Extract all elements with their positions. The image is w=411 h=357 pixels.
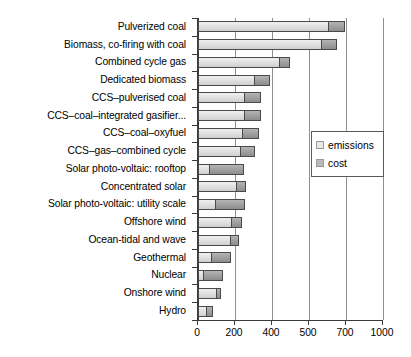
bar-stack: [198, 235, 239, 246]
y-axis-label-row: Combined cycle gas: [0, 54, 191, 72]
y-axis-label-row: Solar photo-voltaic: utility scale: [0, 196, 191, 214]
y-axis-tick: [192, 231, 197, 232]
y-axis-label: Combined cycle gas: [95, 57, 186, 67]
bar-stack: [198, 217, 242, 228]
y-axis-tick: [192, 213, 197, 214]
bar-stack: [198, 75, 270, 86]
y-axis-label-row: Ocean-tidal and wave: [0, 231, 191, 249]
bar-segment-cost: [321, 39, 337, 50]
bar-stack: [198, 92, 261, 103]
x-axis-tick: [345, 320, 346, 325]
y-axis-label-row: Onshore wind: [0, 284, 191, 302]
bar-stack: [198, 39, 337, 50]
y-axis-label-row: Pulverized coal: [0, 18, 191, 36]
y-axis-tick: [192, 267, 197, 268]
y-axis-label-row: Geothermal: [0, 249, 191, 267]
x-axis-tick-label: 700: [336, 327, 353, 338]
y-axis-label-row: Hydro: [0, 302, 191, 320]
bar-segment-emissions: [198, 235, 230, 246]
bar-stack: [198, 21, 345, 32]
bar-segment-cost: [244, 92, 261, 103]
bar-segment-cost: [206, 306, 213, 317]
y-axis-label: Offshore wind: [124, 217, 186, 227]
bar-segment-emissions: [198, 146, 240, 157]
bar-row: [198, 89, 382, 107]
y-axis-tick: [192, 54, 197, 55]
bar-row: [198, 18, 382, 36]
y-axis-label-row: Biomass, co-firing with coal: [0, 36, 191, 54]
x-axis-tick: [308, 320, 309, 325]
bar-segment-emissions: [198, 252, 211, 263]
y-axis-label-row: Offshore wind: [0, 213, 191, 231]
bar-segment-emissions: [198, 181, 236, 192]
y-axis-label: Onshore wind: [124, 288, 186, 298]
bar-stack: [198, 199, 245, 210]
x-axis-tick-label: 200: [225, 327, 242, 338]
bar-stack: [198, 110, 261, 121]
y-axis-label: CCS–pulverised coal: [92, 93, 186, 103]
bar-segment-cost: [203, 270, 223, 281]
bar-row: [198, 54, 382, 72]
bar-stack: [198, 306, 213, 317]
y-axis-tick: [192, 320, 197, 321]
bar-segment-emissions: [198, 164, 209, 175]
y-axis-labels: Pulverized coalBiomass, co-firing with c…: [0, 18, 191, 320]
bar-segment-cost: [211, 252, 232, 263]
bar-segment-cost: [279, 57, 290, 68]
bar-segment-cost: [209, 164, 244, 175]
x-axis-tick: [197, 320, 198, 325]
x-axis-tick-label: 1000: [371, 327, 394, 338]
bar-segment-emissions: [198, 288, 216, 299]
bar-stack: [198, 270, 223, 281]
y-axis-label: Biomass, co-firing with coal: [64, 40, 186, 50]
bar-row: [198, 213, 382, 231]
y-axis-tick: [192, 302, 197, 303]
bar-segment-emissions: [198, 128, 242, 139]
bar-stack: [198, 57, 290, 68]
x-axis-tick: [234, 320, 235, 325]
y-axis-label-row: CCS–coal–oxyfuel: [0, 125, 191, 143]
x-axis-tick: [271, 320, 272, 325]
bar-segment-emissions: [198, 199, 215, 210]
bar-row: [198, 302, 382, 320]
y-axis-label: CCS–coal–oxyfuel: [103, 128, 186, 138]
bar-row: [198, 284, 382, 302]
y-axis-label: Nuclear: [151, 270, 186, 280]
y-axis-label-row: Solar photo-voltaic: rooftop: [0, 160, 191, 178]
bar-row: [198, 249, 382, 267]
y-axis-tick: [192, 89, 197, 90]
bar-segment-emissions: [198, 21, 328, 32]
bar-segment-emissions: [198, 306, 206, 317]
bar-stack: [198, 181, 246, 192]
bar-segment-cost: [215, 199, 245, 210]
bar-row: [198, 71, 382, 89]
bar-segment-cost: [240, 146, 255, 157]
bar-stack: [198, 252, 231, 263]
y-axis-label-row: Concentrated solar: [0, 178, 191, 196]
bar-segment-emissions: [198, 110, 244, 121]
y-axis-tick: [192, 178, 197, 179]
legend-label: cost: [328, 158, 347, 169]
y-axis-tick: [192, 160, 197, 161]
bar-chart: Pulverized coalBiomass, co-firing with c…: [0, 0, 411, 357]
x-axis-tick-label: 400: [262, 327, 279, 338]
y-axis-label: Solar photo-voltaic: utility scale: [48, 199, 186, 209]
bar-stack: [198, 288, 221, 299]
y-axis-label-row: CCS–gas–combined cycle: [0, 142, 191, 160]
bar-row: [198, 267, 382, 285]
y-axis-tick: [192, 125, 197, 126]
legend-swatch-emissions: [316, 141, 324, 149]
y-axis-tick: [192, 71, 197, 72]
legend-swatch-cost: [316, 159, 324, 167]
y-axis-label-row: Dedicated biomass: [0, 71, 191, 89]
y-axis-label-row: Nuclear: [0, 267, 191, 285]
y-axis-label-row: CCS–coal–integrated gasifier...: [0, 107, 191, 125]
bar-segment-cost: [328, 21, 344, 32]
bar-row: [198, 231, 382, 249]
y-axis-label: Concentrated solar: [101, 182, 186, 192]
y-axis-label: CCS–coal–integrated gasifier...: [47, 111, 186, 121]
bar-segment-cost: [231, 217, 242, 228]
legend-item: cost: [316, 154, 383, 172]
y-axis-label: Ocean-tidal and wave: [88, 235, 186, 245]
y-axis-label: Hydro: [159, 306, 186, 316]
